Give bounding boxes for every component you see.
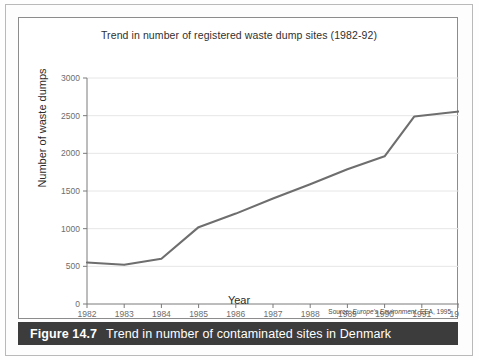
x-tick-label: 1982 xyxy=(78,309,97,319)
y-tick-label: 500 xyxy=(66,261,80,271)
figure-caption-bar: Figure 14.7 Trend in number of contamina… xyxy=(18,322,458,345)
y-axis-label: Number of waste dumps xyxy=(36,58,48,198)
x-tick-label: 1983 xyxy=(115,309,134,319)
plot-area: 050010001500200025003000 198219831984198… xyxy=(19,18,459,320)
y-tick-label: 1500 xyxy=(61,186,80,196)
y-tick-label: 1000 xyxy=(61,224,80,234)
line-chart-svg: 050010001500200025003000 198219831984198… xyxy=(19,18,459,320)
x-tick-label: 1987 xyxy=(264,309,283,319)
chart-panel: Trend in number of registered waste dump… xyxy=(18,17,458,319)
source-suffix: EEA, 1995 xyxy=(418,308,451,315)
figure-page: Trend in number of registered waste dump… xyxy=(0,0,479,360)
y-tick-label: 2500 xyxy=(61,111,80,121)
source-prefix: Source: xyxy=(328,308,352,315)
x-tick-label: 1985 xyxy=(189,309,208,319)
x-axis-label: Year xyxy=(19,294,459,306)
data-series-line xyxy=(87,112,459,265)
y-tick-label: 3000 xyxy=(61,73,80,83)
source-title: Europe's Environment, xyxy=(353,308,419,315)
y-tick-label: 2000 xyxy=(61,148,80,158)
figure-number: Figure 14.7 xyxy=(30,327,97,341)
source-note: Source: Europe's Environment, EEA, 1995 xyxy=(328,308,451,315)
figure-caption-text: Trend in number of contaminated sites in… xyxy=(106,327,391,341)
x-tick-label: 1984 xyxy=(152,309,171,319)
gridlines xyxy=(87,78,459,266)
x-tick-label: 1988 xyxy=(301,309,320,319)
x-tick-label: 1986 xyxy=(226,309,245,319)
y-tick-labels: 050010001500200025003000 xyxy=(61,73,87,309)
